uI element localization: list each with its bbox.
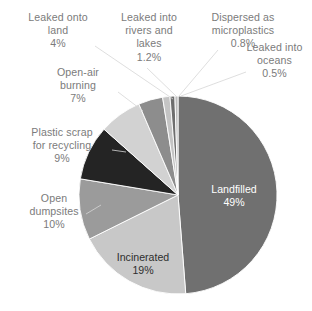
slice-label-line2: burning (60, 79, 96, 91)
slice-value-rivers-and-lakes: 1.2% (103, 51, 195, 64)
slice-value-plastic-scrap: 9% (2, 152, 122, 165)
slice-label-line1: Leaked into (121, 11, 177, 23)
slice-value-open-air-burning: 7% (30, 92, 126, 105)
slice-value-landfilled: 49% (196, 196, 272, 209)
slice-label-line1: Open-air (57, 66, 99, 78)
slice-label-open-dumpsites: Open dumpsites 10% (8, 192, 100, 232)
slice-label-line1: Dispersed as (211, 11, 274, 23)
slice-label-line2: oceans (257, 54, 292, 66)
slice-label-incinerated: Incinerated 19% (96, 251, 190, 277)
slice-label-line3: lakes (136, 37, 161, 49)
slice-label-line2: microplastics (212, 24, 275, 36)
slice-label-landfilled: Landfilled 49% (196, 183, 272, 209)
slice-value-leaked-onto-land: 4% (8, 37, 108, 50)
slice-label-line1: Open (41, 192, 67, 204)
slice-label-line1: Landfilled (211, 183, 256, 195)
pie-chart: Leaked onto land 4% Leaked into rivers a… (0, 0, 312, 311)
slice-label-leaked-into-oceans: Leaked into oceans 0.5% (237, 41, 312, 81)
slice-label-line2: rivers and (125, 24, 173, 36)
slice-label-line1: Leaked into (247, 41, 303, 53)
slice-value-incinerated: 19% (96, 264, 190, 277)
slice-label-leaked-onto-land: Leaked onto land 4% (8, 11, 108, 51)
slice-value-leaked-into-oceans: 0.5% (237, 67, 312, 80)
slice-label-line2: for recycling (33, 139, 91, 151)
slice-label-plastic-scrap-for-recycling: Plastic scrap for recycling 9% (2, 126, 122, 166)
slice-label-line1: Plastic scrap (31, 126, 92, 138)
slice-label-line1: Leaked onto (28, 11, 87, 23)
slice-value-open-dumpsites: 10% (8, 218, 100, 231)
slice-label-line2: land (48, 24, 68, 36)
slice-label-line2: dumpsites (29, 205, 78, 217)
slice-label-open-air-burning: Open-air burning 7% (30, 66, 126, 106)
slice-label-line1: Incinerated (117, 251, 169, 263)
slice-label-rivers-and-lakes: Leaked into rivers and lakes 1.2% (103, 11, 195, 64)
leader-line-rivers-and-lakes (147, 68, 176, 96)
